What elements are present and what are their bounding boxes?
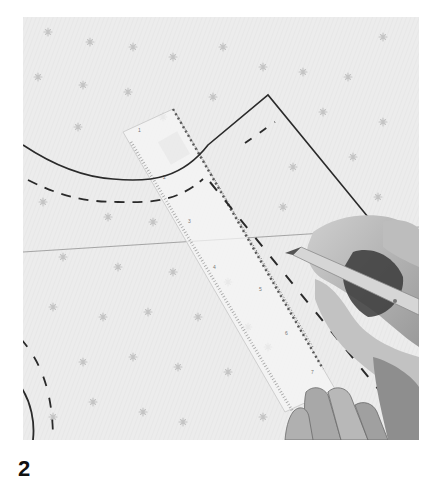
step-number: 2 xyxy=(18,458,30,480)
svg-text:1: 1 xyxy=(138,127,141,133)
svg-text:5: 5 xyxy=(259,286,262,292)
photo-canvas: 1 2 3 4 5 6 7 xyxy=(23,17,419,440)
svg-text:3: 3 xyxy=(188,218,191,224)
pattern-drafting-photo: 1 2 3 4 5 6 7 xyxy=(23,17,419,440)
svg-text:4: 4 xyxy=(213,264,216,270)
svg-text:7: 7 xyxy=(311,369,314,375)
svg-text:6: 6 xyxy=(285,330,288,336)
